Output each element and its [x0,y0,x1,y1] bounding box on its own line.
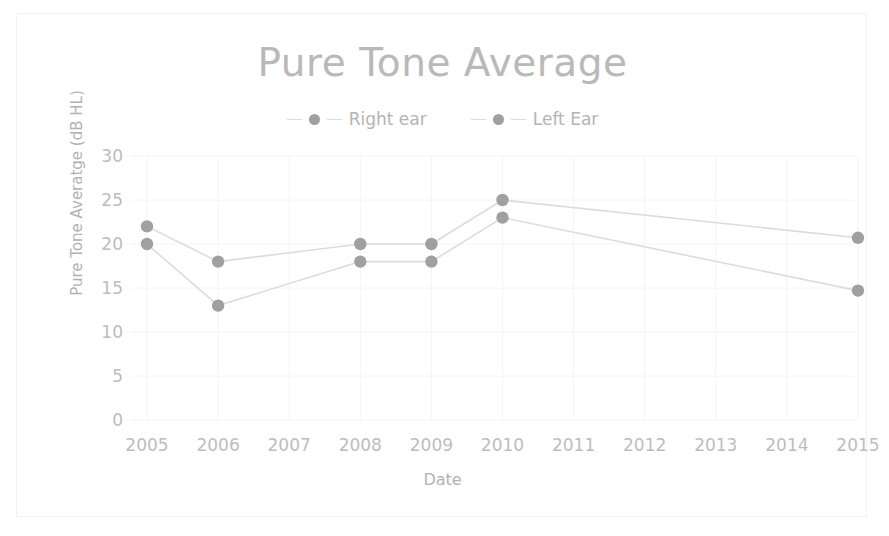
x-tick-label: 2007 [268,435,311,455]
data-point-marker [141,220,153,232]
y-tick-label: 0 [89,410,123,430]
x-tick-label: 2011 [552,435,595,455]
x-tick-label: 2014 [765,435,808,455]
gridlines [130,156,858,420]
x-tick-label: 2006 [196,435,239,455]
data-point-marker [141,238,153,250]
data-point-marker [354,238,366,250]
plot-svg [130,156,855,420]
y-tick-label: 10 [89,322,123,342]
data-point-marker [425,238,437,250]
x-tick-label: 2009 [410,435,453,455]
y-tick-label: 15 [89,278,123,298]
x-tick-label: 2013 [694,435,737,455]
legend-item-left-ear[interactable]: Left Ear [471,109,599,129]
legend-item-right-ear[interactable]: Right ear [287,109,427,129]
x-tick-label: 2008 [339,435,382,455]
plot-area [130,156,855,420]
chart-legend: Right ear Left Ear [17,109,868,129]
legend-line-left-ear-trailing [511,119,526,120]
data-point-marker [212,255,224,267]
data-point-marker [496,211,508,223]
chart-container: Pure Tone Average Right ear Left Ear Pur… [16,13,867,517]
legend-label-left-ear: Left Ear [533,109,599,129]
x-tick-label: 2005 [125,435,168,455]
y-axis-tick-labels: 051015202530 [77,156,123,420]
x-tick-label: 2010 [481,435,524,455]
y-tick-label: 30 [89,146,123,166]
y-tick-label: 5 [89,366,123,386]
legend-line-right-ear [287,119,302,120]
data-point-marker [852,284,864,296]
data-point-marker [354,255,366,267]
data-point-marker [425,255,437,267]
data-point-marker [496,194,508,206]
y-tick-label: 20 [89,234,123,254]
x-axis-title: Date [17,470,868,489]
legend-marker-right-ear [309,114,320,125]
chart-title: Pure Tone Average [17,40,868,85]
x-tick-label: 2015 [836,435,879,455]
x-tick-label: 2012 [623,435,666,455]
x-axis-tick-labels: 2005200620072008200920102011201220132014… [17,435,868,459]
legend-marker-left-ear [493,114,504,125]
data-point-marker [852,232,864,244]
legend-line-right-ear-trailing [327,119,342,120]
y-tick-label: 25 [89,190,123,210]
legend-label-right-ear: Right ear [349,109,427,129]
legend-line-left-ear [471,119,486,120]
data-point-marker [212,299,224,311]
